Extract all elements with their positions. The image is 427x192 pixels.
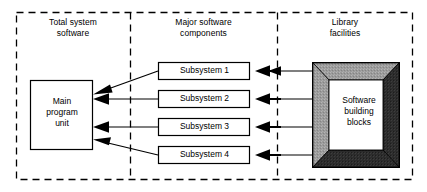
reuse-structure-diagram: Total system software Major software com… (0, 0, 427, 192)
zone-title-total-system-software: Total system software (18, 17, 128, 38)
subsystem-label-3: Subsystem 3 (159, 118, 250, 135)
subsystem-label-1: Subsystem 1 (159, 62, 250, 79)
arrow-library-to-subsystem-4 (255, 149, 312, 160)
library-to-subsystem-arrows (255, 65, 312, 160)
library-building-blocks-label: Software building blocks (330, 95, 388, 128)
zone-title-library-facilities: Library facilities (280, 17, 410, 38)
arrow-subsystem-4-to-main (93, 137, 158, 155)
subsystem-to-main-arrows (93, 71, 158, 155)
subsystem-label-2: Subsystem 2 (159, 90, 250, 107)
zone-title-major-software-components: Major software components (132, 17, 275, 38)
main-program-unit-label: Main program unit (31, 96, 93, 129)
arrow-library-to-subsystem-1 (255, 65, 312, 76)
arrow-library-to-subsystem-3 (255, 121, 312, 132)
arrow-subsystem-3-to-main (93, 121, 158, 132)
arrow-subsystem-2-to-main (93, 93, 158, 104)
arrow-subsystem-1-to-main (93, 71, 158, 95)
subsystem-label-4: Subsystem 4 (159, 146, 250, 163)
arrow-library-to-subsystem-2 (255, 93, 312, 104)
library-bevel-left (313, 63, 329, 167)
